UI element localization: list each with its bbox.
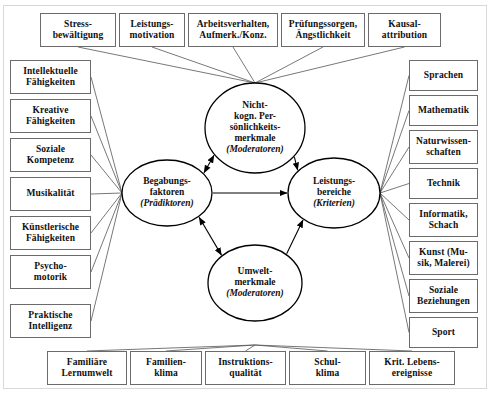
top_boxes-box[interactable]: Arbeitsverhalten, Aufmerk./Konz.: [188, 13, 278, 47]
bottom_boxes-box-label: Instruktions- qualität: [218, 357, 273, 380]
connector-line: [380, 193, 409, 258]
bottom_boxes-box[interactable]: Instruktions- qualität: [205, 351, 286, 385]
left_boxes-box[interactable]: Musikalität: [10, 177, 91, 211]
connector-line: [380, 184, 409, 194]
diagram-canvas: Stress- bewältigungLeistungs- motivation…: [0, 0, 491, 398]
ellipse-umweltmerkmale[interactable]: [208, 245, 302, 321]
arrow-nichtkognitiv-to-leistungsbereiche: [294, 157, 297, 170]
connector-line: [91, 116, 122, 193]
bottom_boxes-box-label: Schul- klima: [314, 357, 340, 380]
left_boxes-box-label: Kreative Fähigkeiten: [26, 105, 75, 128]
connector-line: [380, 193, 409, 296]
bottom_boxes-box[interactable]: Familien- klima: [130, 351, 202, 385]
bottom_boxes-box-label: Familiäre Lernumwelt: [61, 357, 112, 380]
right_boxes-box-label: Technik: [427, 178, 460, 190]
left_boxes-box-label: Praktische Intelligenz: [28, 310, 72, 333]
top_boxes-box[interactable]: Leistungs- motivation: [119, 13, 185, 47]
right_boxes-box-label: Sport: [432, 327, 455, 339]
bottom_boxes-box-label: Familien- klima: [146, 357, 186, 380]
arrow-begabungsfaktoren-to-nichtkognitiv: [204, 155, 214, 172]
right_boxes-box-label: Sprachen: [424, 70, 463, 82]
bottom_boxes-box[interactable]: Krit. Lebens- ereignisse: [369, 351, 455, 385]
connector-line: [91, 193, 122, 272]
left_boxes-box-label: Künstlerische Fähigkeiten: [22, 222, 79, 245]
connector-line: [233, 47, 255, 83]
connector-line: [380, 76, 409, 194]
right_boxes-box-label: Naturwissen- schaften: [416, 136, 471, 159]
right_boxes-box[interactable]: Technik: [409, 168, 478, 199]
connector-line: [380, 193, 409, 220]
left_boxes-box[interactable]: Soziale Kompetenz: [10, 138, 91, 172]
right_boxes-box-label: Informatik, Schach: [419, 209, 467, 232]
connector-line: [91, 193, 122, 321]
arrow-begabungsfaktoren-to-umweltmerkmale: [199, 217, 221, 255]
top_boxes-box-label: Arbeitsverhalten, Aufmerk./Konz.: [197, 19, 270, 42]
right_boxes-box-label: Kunst (Mu- sik, Malerei): [417, 247, 469, 270]
ellipse-leistungsbereiche[interactable]: [288, 158, 380, 228]
right_boxes-box[interactable]: Kunst (Mu- sik, Malerei): [409, 241, 478, 275]
right_boxes-box[interactable]: Sport: [409, 317, 478, 348]
bottom_boxes-box[interactable]: Familiäre Lernumwelt: [47, 351, 127, 385]
left_boxes-box[interactable]: Intellektuelle Fähigkeiten: [10, 60, 91, 94]
left_boxes-box[interactable]: Praktische Intelligenz: [10, 304, 91, 338]
left_boxes-box-label: Intellektuelle Fähigkeiten: [23, 66, 78, 89]
top_boxes-box[interactable]: Stress- bewältigung: [40, 13, 116, 47]
right_boxes-box-label: Soziale Beziehungen: [417, 285, 470, 308]
right_boxes-box[interactable]: Naturwissen- schaften: [409, 130, 478, 164]
left_boxes-box-label: Psycho- motorik: [34, 261, 67, 284]
right_boxes-box-label: Mathematik: [418, 105, 469, 117]
connector-line: [91, 77, 122, 193]
top_boxes-box-label: Stress- bewältigung: [53, 19, 104, 42]
right_boxes-box[interactable]: Informatik, Schach: [409, 203, 478, 237]
top_boxes-box[interactable]: Kausal- attribution: [368, 13, 441, 47]
connector-line: [380, 111, 409, 194]
connector-line: [91, 155, 122, 193]
left_boxes-box[interactable]: Künstlerische Fähigkeiten: [10, 216, 91, 250]
right_boxes-box[interactable]: Sprachen: [409, 60, 478, 91]
left_boxes-box-label: Soziale Kompetenz: [27, 144, 74, 167]
top_boxes-box[interactable]: Prüfungssorgen, Ängstlichkeit: [281, 13, 365, 47]
left_boxes-box-label: Musikalität: [26, 188, 74, 200]
connector-line: [380, 147, 409, 193]
left_boxes-box[interactable]: Kreative Fähigkeiten: [10, 99, 91, 133]
connector-line: [380, 193, 409, 333]
right_boxes-box[interactable]: Soziale Beziehungen: [409, 279, 478, 313]
left_boxes-box[interactable]: Psycho- motorik: [10, 255, 91, 289]
top_boxes-box-label: Leistungs- motivation: [130, 19, 175, 42]
ellipse-nichtkognitiv[interactable]: [205, 83, 305, 173]
bottom_boxes-box[interactable]: Schul- klima: [289, 351, 366, 385]
top_boxes-box-label: Kausal- attribution: [382, 19, 427, 42]
connector-line: [91, 193, 122, 194]
right_boxes-box[interactable]: Mathematik: [409, 95, 478, 126]
connector-line: [255, 47, 405, 83]
bottom_boxes-box-label: Krit. Lebens- ereignisse: [384, 357, 440, 380]
connector-line: [255, 47, 323, 83]
ellipse-begabungsfaktoren[interactable]: [122, 160, 212, 226]
arrow-umweltmerkmale-to-leistungsbereiche: [287, 220, 303, 254]
top_boxes-box-label: Prüfungssorgen, Ängstlichkeit: [289, 19, 357, 42]
